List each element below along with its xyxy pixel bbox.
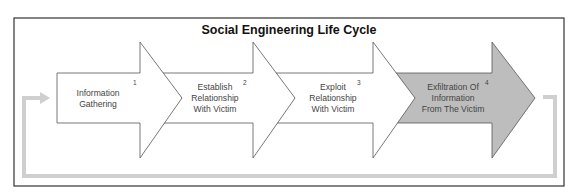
step-3-number: 3 bbox=[357, 79, 361, 86]
step-2-label-line-3: With Victim bbox=[194, 104, 237, 114]
step-4-label-line-1: Exfiltration Of bbox=[427, 82, 479, 92]
step-3-label-line-2: Relationship bbox=[309, 93, 357, 103]
step-3-label-line-3: With Victim bbox=[312, 104, 355, 114]
step-2-number: 2 bbox=[243, 79, 247, 86]
step-4-label-line-3: From The Victim bbox=[422, 104, 485, 114]
diagram-title: Social Engineering Life Cycle bbox=[201, 23, 376, 37]
step-1-label-line-2: Gathering bbox=[79, 99, 117, 109]
step-3-label-line-1: Exploit bbox=[320, 82, 346, 92]
step-2-label-line-1: Establish bbox=[198, 82, 233, 92]
step-4-label-line-2: Information bbox=[432, 93, 475, 103]
step-1-number: 1 bbox=[133, 79, 137, 86]
step-1-label-line-1: Information bbox=[77, 88, 120, 98]
social-engineering-diagram: Social Engineering Life Cycle Informatio… bbox=[0, 0, 574, 194]
step-2-label-line-2: Relationship bbox=[191, 93, 239, 103]
step-4-number: 4 bbox=[485, 79, 489, 86]
